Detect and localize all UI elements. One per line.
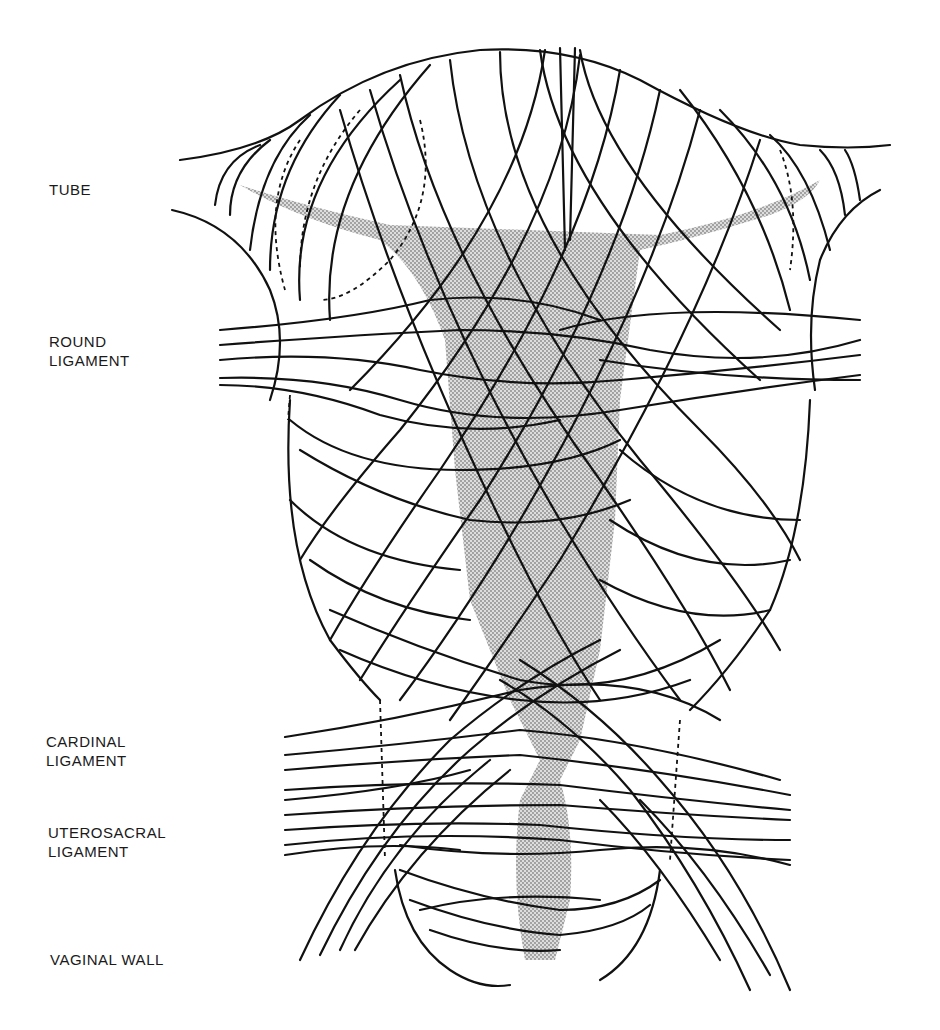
uterus-fiber-diagram	[0, 0, 940, 1030]
